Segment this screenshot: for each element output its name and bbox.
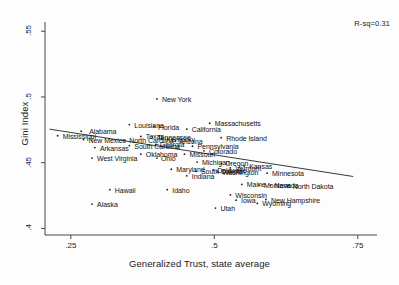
x-tick-label: .5 — [199, 241, 229, 250]
data-point — [91, 203, 93, 205]
data-point — [256, 203, 258, 205]
scatter-plot-figure: Generalized Trust, state average Gini In… — [0, 0, 399, 285]
data-point — [229, 194, 231, 196]
data-point-label: Iowa — [241, 197, 256, 204]
data-point-label: New Hampshire — [271, 197, 320, 204]
data-point-label: Missouri — [189, 151, 215, 158]
data-point — [109, 189, 111, 191]
data-point — [241, 183, 243, 185]
data-point — [170, 168, 172, 170]
r-squared-annotation: R-sq=0.31 — [354, 19, 390, 28]
data-point-label: Idaho — [172, 187, 189, 194]
data-point-label: North Dakota — [293, 183, 334, 190]
x-tick-label: .75 — [343, 241, 373, 250]
data-point — [186, 128, 188, 130]
data-point — [209, 122, 211, 124]
data-point — [91, 157, 93, 159]
x-tick-label: .25 — [56, 241, 86, 250]
data-point — [156, 98, 158, 100]
data-point — [266, 172, 268, 174]
data-point — [140, 153, 142, 155]
data-point-label: Alaska — [97, 201, 118, 208]
data-point — [192, 145, 194, 147]
data-point-label: Rhode Island — [226, 135, 267, 142]
data-point-label: Florida — [158, 124, 179, 131]
data-point-label: West Virginia — [97, 155, 137, 162]
data-point-label: Hawaii — [115, 187, 136, 194]
y-tick-label: .55 — [24, 18, 33, 44]
data-point-label: Ohio — [161, 155, 176, 162]
data-point — [184, 153, 186, 155]
y-tick-label: .5 — [24, 83, 33, 109]
data-point-label: Arkansas — [100, 145, 129, 152]
data-point — [94, 147, 96, 149]
data-point — [235, 199, 237, 201]
data-point-label: New Mexico — [88, 137, 126, 144]
data-point-label: Maine — [247, 181, 266, 188]
data-point — [215, 207, 217, 209]
data-point-label: Indiana — [192, 173, 215, 180]
data-point-label: Kansas — [249, 163, 272, 170]
y-tick-label: .4 — [24, 215, 33, 241]
data-point-label: New York — [162, 96, 191, 103]
data-point — [128, 124, 130, 126]
data-point — [57, 135, 59, 137]
x-axis-title: Generalized Trust, state average — [0, 258, 399, 269]
data-point — [166, 189, 168, 191]
data-point — [220, 137, 222, 139]
data-point-label: Utah — [220, 205, 235, 212]
y-tick-label: .45 — [24, 149, 33, 175]
data-point-label: Minnesota — [272, 170, 304, 177]
data-point — [186, 175, 188, 177]
data-point-label: Massachusetts — [215, 120, 261, 127]
data-point — [196, 161, 198, 163]
